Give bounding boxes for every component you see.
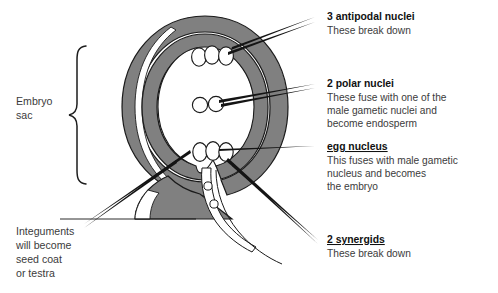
embryo-sac-line-1: Embryo [16, 95, 53, 107]
micropyle-nucleus-1 [204, 182, 212, 190]
egg-apparatus-group [193, 142, 233, 162]
synergid-2 [219, 143, 233, 162]
polar-body-3: become endosperm [327, 118, 417, 129]
polar-body-2: male gametic nuclei and [327, 105, 437, 116]
synergids-heading: 2 synergids [327, 234, 385, 245]
micropyle-nucleus-2 [210, 200, 218, 208]
diagram-canvas: Embryo sac Integuments will become seed … [0, 0, 498, 293]
egg-nucleus [206, 142, 220, 161]
egg-nucleus-body-1: This fuses with male gametic [327, 155, 458, 166]
antipodal-body-1: These break down [327, 25, 411, 36]
integuments-line-2: will become [15, 239, 71, 251]
polar-body-1: These fuse with one of the [327, 92, 447, 103]
antipodal-nucleus-2 [205, 46, 220, 64]
integuments-line-3: seed coat [16, 253, 62, 265]
egg-nucleus-body-2: nucleus and becomes [327, 168, 426, 179]
egg-nucleus-body-3: the embryo [327, 181, 378, 192]
integuments-line-4: or testra [16, 267, 55, 279]
egg-nucleus-heading: egg nucleus [327, 141, 388, 152]
antipodal-nuclei-group [192, 46, 234, 66]
embryo-sac-line-2: sac [16, 109, 33, 121]
integuments-line-1: Integuments [16, 225, 74, 237]
polar-heading: 2 polar nuclei [327, 78, 394, 89]
synergids-body-1: These break down [327, 248, 411, 259]
polar-nucleus-1 [192, 97, 207, 112]
ovule-diagram: Embryo sac Integuments will become seed … [0, 0, 498, 293]
antipodal-heading: 3 antipodal nuclei [327, 11, 415, 22]
synergid-1 [193, 143, 207, 162]
